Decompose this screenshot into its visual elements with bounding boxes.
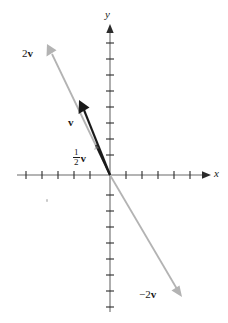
x-axis-arrowhead bbox=[202, 171, 211, 178]
y-axis-arrowhead bbox=[106, 24, 113, 33]
minus-two-v-scalar: −2 bbox=[139, 288, 151, 300]
fraction-numerator: 1 bbox=[73, 148, 80, 157]
x-axis-label: x bbox=[214, 168, 219, 179]
minus-two-v-vector-shaft bbox=[110, 175, 177, 289]
scan-speck-artifact bbox=[46, 199, 48, 202]
half-v-bold-v: v bbox=[81, 153, 87, 164]
two-v-vector-label: 2v bbox=[22, 48, 33, 59]
axes-group bbox=[17, 24, 211, 312]
one-half-fraction: 1 2 bbox=[73, 148, 80, 168]
y-axis-label: y bbox=[105, 9, 110, 20]
v-vector-shaft bbox=[84, 110, 110, 175]
two-v-bold-v: v bbox=[28, 47, 34, 59]
minus-two-v-vector-arrowhead bbox=[172, 286, 183, 298]
minus-two-v-vector-label: −2v bbox=[139, 289, 156, 300]
v-vector-label: v bbox=[68, 117, 74, 128]
vector-diagram-figure: x y 2v v 1 2 v −2v bbox=[0, 0, 228, 323]
minus-two-v-bold-v: v bbox=[151, 288, 157, 300]
half-v-vector-label: 1 2 v bbox=[73, 147, 86, 169]
minus-two-v-vector bbox=[110, 175, 182, 297]
v-bold-v: v bbox=[68, 116, 74, 128]
fraction-denominator: 2 bbox=[73, 157, 80, 167]
diagram-canvas bbox=[0, 0, 228, 323]
